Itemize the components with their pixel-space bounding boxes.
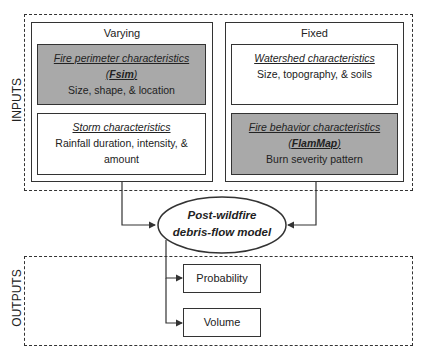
- model-label: Post-wildfire debris-flow model: [172, 207, 272, 241]
- outputs-label: OUTPUTS: [10, 263, 26, 333]
- output-volume: Volume: [183, 308, 261, 337]
- output-probability: Probability: [183, 264, 261, 293]
